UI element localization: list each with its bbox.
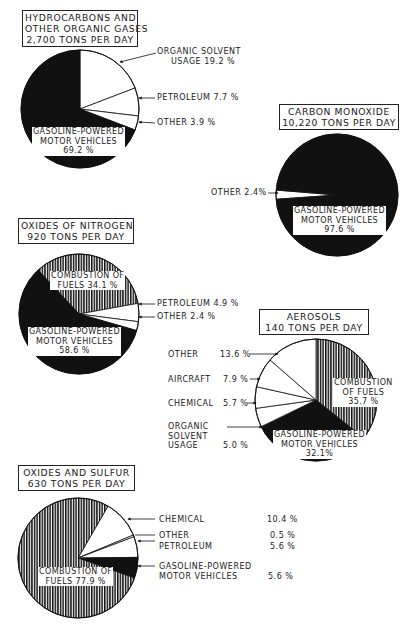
value-gasoline-motor-vehicles: 5.6 %	[268, 572, 293, 582]
value-other: 13.6 %	[220, 350, 251, 360]
title-oxides-of-nitrogen: OXIDES OF NITROGEN 920 TONS PER DAY	[18, 218, 134, 244]
label-line: COMBUSTION OF	[51, 271, 124, 281]
value-petroleum: 5.6 %	[270, 542, 295, 552]
label-line: GASOLINE-POWERED	[274, 430, 365, 440]
label-line: COMBUSTION OF	[39, 567, 112, 577]
label-line: MOTOR VEHICLES	[294, 216, 385, 226]
title-oxides-of-sulfur: OXIDES AND SULFUR 630 TONS PER DAY	[18, 465, 135, 491]
label-other: OTHER	[168, 350, 198, 360]
label-organic-solvent: ORGANIC SOLVENT USAGE 19.2 %	[157, 47, 241, 66]
title-line: 10,220 TONS PER DAY	[282, 117, 396, 128]
title-line: 2,700 TONS PER DAY	[25, 34, 135, 45]
label-line: USAGE 19.2 %	[157, 57, 241, 67]
title-line: 920 TONS PER DAY	[21, 231, 131, 242]
label-other: OTHER 2.4%	[211, 188, 267, 198]
label-gasoline-motor-vehicles: GASOLINE-POWERED MOTOR VEHICLES 32.1%	[273, 430, 366, 459]
leader-lines	[120, 53, 278, 566]
label-line: ORGANIC SOLVENT	[157, 47, 241, 57]
label-other: OTHER 3.9 %	[157, 118, 216, 128]
label-gasoline-motor-vehicles: GASOLINE-POWERED MOTOR VEHICLES 69.2 %	[32, 127, 125, 156]
label-petroleum: PETROLEUM 7.7 %	[157, 93, 239, 103]
label-line: 35.7 %	[334, 397, 393, 407]
label-petroleum: PETROLEUM 4.9 %	[157, 299, 239, 309]
pie-carbon-monoxide	[276, 134, 398, 256]
label-line: MOTOR VEHICLES	[274, 440, 365, 450]
label-line: GASOLINE-POWERED	[33, 127, 124, 137]
title-line: AEROSOLS	[262, 311, 366, 322]
title-carbon-monoxide: CARBON MONOXIDE 10,220 TONS PER DAY	[279, 104, 399, 130]
value-chemical: 5.7 %	[223, 399, 248, 409]
label-line: 97.6 %	[294, 225, 385, 235]
label-gasoline-motor-vehicles: GASOLINE-POWERED MOTOR VEHICLES 58.6 %	[28, 327, 121, 356]
label-line: COMBUSTION	[334, 378, 393, 388]
title-line: 140 TONS PER DAY	[262, 322, 366, 333]
label-chemical: CHEMICAL	[168, 399, 213, 409]
label-line: USAGE	[168, 441, 209, 451]
label-line: FUELS 77.9 %	[39, 577, 112, 587]
label-line: GASOLINE-POWERED	[29, 327, 120, 337]
pie-oxides-of-sulfur	[18, 498, 138, 618]
label-organic-solvent-usage: ORGANIC SOLVENT USAGE	[168, 422, 209, 451]
label-line: OF FUELS	[334, 388, 393, 398]
label-petroleum: PETROLEUM	[159, 542, 212, 552]
label-other: OTHER 2.4 %	[157, 312, 216, 322]
label-gasoline-motor-vehicles: GASOLINE-POWERED MOTOR VEHICLES 97.6 %	[293, 206, 386, 235]
label-line: MOTOR VEHICLES	[29, 337, 120, 347]
label-aircraft: AIRCRAFT	[168, 375, 211, 385]
label-combustion-of-fuels: COMBUSTION OF FUELS 35.7 %	[333, 378, 394, 407]
label-chemical: CHEMICAL	[159, 515, 204, 525]
title-line: 630 TONS PER DAY	[21, 478, 132, 489]
value-other: 0.5 %	[270, 531, 295, 541]
label-line: GASOLINE-POWERED	[159, 562, 252, 572]
title-line: CARBON MONOXIDE	[282, 106, 396, 117]
label-combustion-of-fuels: COMBUSTION OF FUELS 77.9 %	[38, 567, 113, 586]
label-line: 58.6 %	[29, 346, 120, 356]
label-line: 32.1%	[274, 449, 365, 459]
title-hydrocarbons: HYDROCARBONS AND OTHER ORGANIC GASES 2,7…	[22, 10, 138, 47]
label-line: MOTOR VEHICLES	[33, 137, 124, 147]
title-aerosols: AEROSOLS 140 TONS PER DAY	[259, 309, 369, 335]
value-organic-solvent-usage: 5.0 %	[223, 441, 248, 451]
label-gasoline-motor-vehicles: GASOLINE-POWERED MOTOR VEHICLES	[159, 562, 252, 581]
value-aircraft: 7.9 %	[223, 375, 248, 385]
label-line: SOLVENT	[168, 432, 209, 442]
label-line: ORGANIC	[168, 422, 209, 432]
label-line: 69.2 %	[33, 146, 124, 156]
label-other: OTHER	[159, 531, 189, 541]
title-line: OTHER ORGANIC GASES	[25, 23, 135, 34]
title-line: OXIDES OF NITROGEN	[21, 220, 131, 231]
label-line: MOTOR VEHICLES	[159, 572, 252, 582]
value-chemical: 10.4 %	[267, 515, 298, 525]
title-line: HYDROCARBONS AND	[25, 12, 135, 23]
label-line: GASOLINE-POWERED	[294, 206, 385, 216]
label-line: FUELS 34.1 %	[51, 281, 124, 291]
label-combustion-of-fuels: COMBUSTION OF FUELS 34.1 %	[50, 271, 125, 290]
title-line: OXIDES AND SULFUR	[21, 467, 132, 478]
